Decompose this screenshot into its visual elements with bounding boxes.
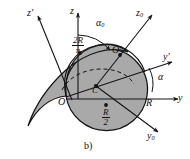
alpha0-angle-label: α0 — [96, 18, 104, 29]
y-axis-label: y — [178, 93, 182, 103]
alpha-angle-label: α — [158, 72, 163, 82]
alpha-angle-arc — [149, 68, 153, 92]
half-radius-label: R 2 — [102, 108, 110, 127]
shaded-body — [28, 44, 148, 130]
z-prime-axis-label: z' — [27, 8, 33, 18]
figure-caption: b) — [84, 140, 92, 151]
y-prime-axis-label: y' — [163, 52, 170, 62]
origin-O-label: O — [58, 97, 65, 107]
y0-axis-label: y0 — [147, 131, 155, 142]
z0-axis-label: z0 — [136, 8, 143, 19]
centroid-distance-label: 2R π — [72, 36, 84, 55]
radius-R-label: R — [146, 98, 152, 108]
figure-panel: z y z' y' z0 y0 α0 α O O' C R 2R π R 2 b… — [0, 0, 190, 159]
z-axis-label: z — [70, 6, 74, 16]
point-C-label: C — [92, 86, 98, 95]
point-O-prime-label: O' — [112, 45, 121, 55]
